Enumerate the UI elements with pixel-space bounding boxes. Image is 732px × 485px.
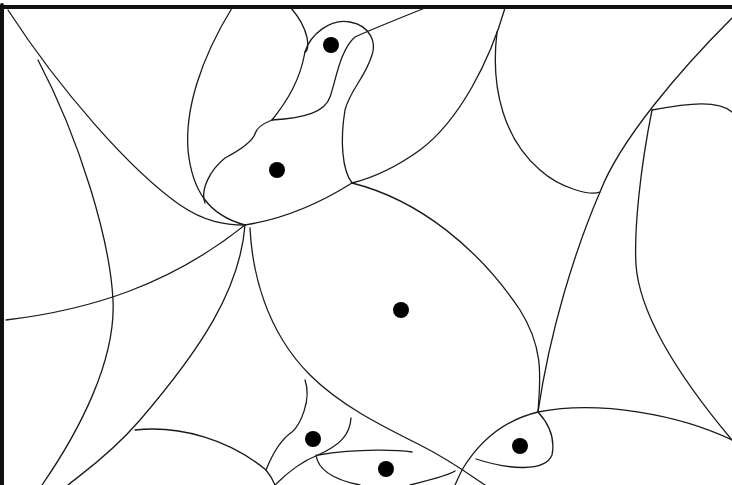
site-point (269, 162, 285, 178)
edge-right-top-curve (652, 104, 732, 112)
edge-s4-left (266, 380, 307, 470)
site-point (378, 461, 394, 477)
edge-s2-bottom (245, 183, 352, 225)
edge-corner-down (38, 60, 113, 485)
edge-right-diagonal (538, 18, 732, 412)
edge-leaf-left (188, 8, 245, 225)
edge-s6-bottom (410, 471, 455, 485)
edge-s3-left (250, 228, 485, 485)
edge-corner-to-hub (8, 10, 245, 225)
edge-leaf-inner (291, 8, 308, 52)
edge-arc-right-upper (495, 32, 600, 193)
site-point (512, 438, 528, 454)
edge-bottom-right-arc (538, 408, 732, 440)
edge-s6-top (318, 450, 412, 455)
edge-arc-top-mid (352, 8, 505, 183)
edge-s6-loop (316, 455, 360, 485)
edge-right-vertical (636, 110, 732, 440)
edge-s3-right (352, 183, 540, 412)
edge-s1-inner (272, 8, 425, 120)
site-point (323, 37, 339, 53)
sites (269, 37, 528, 477)
partition-diagram (0, 0, 732, 485)
edge-hub-down-left (68, 225, 245, 485)
edge-bottom-left-arc (135, 429, 275, 485)
edge-s1-neck (272, 52, 305, 120)
site-point (305, 431, 321, 447)
edge-left-horizontal (6, 225, 245, 320)
edge-s1-region (305, 21, 373, 183)
edge-s2-top (204, 120, 272, 203)
site-point (393, 302, 409, 318)
